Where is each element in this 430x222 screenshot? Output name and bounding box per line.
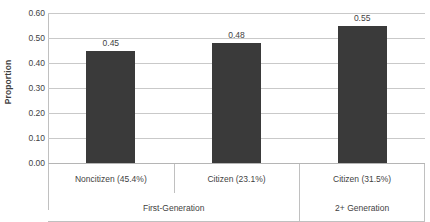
y-axis-tick-label: 0.00 [19,159,45,168]
bar [338,26,387,164]
bar-value-label: 0.55 [332,14,392,23]
category-group-label: 2+ Generation [299,193,425,222]
y-axis-title: Proportion [0,0,16,163]
y-axis-tick-label: 0.50 [19,34,45,43]
y-axis-tick-labels: 0.600.500.400.300.200.100.00 [16,0,45,222]
category-axis: Noncitizen (45.4%)Citizen (23.1%)Citizen… [48,164,425,222]
axis-right-border [424,164,425,222]
bar-value-label: 0.48 [207,31,267,40]
category-label: Citizen (31.5%) [299,164,425,193]
bar-value-label: 0.45 [81,39,141,48]
y-axis-title-label: Proportion [3,59,13,103]
category-label: Noncitizen (45.4%) [48,164,174,193]
bar [86,51,135,164]
category-group-label: First-Generation [48,193,299,222]
axis-bottom-border [48,221,425,222]
y-axis-tick-label: 0.20 [19,109,45,118]
bar-chart: Proportion 0.600.500.400.300.200.100.00 … [0,0,430,222]
y-axis-tick-label: 0.10 [19,134,45,143]
bar [212,43,261,163]
category-separator [174,164,175,193]
y-axis-tick-label: 0.30 [19,84,45,93]
category-label: Citizen (23.1%) [174,164,300,193]
group-separator [299,164,300,222]
y-axis-tick-label: 0.40 [19,59,45,68]
y-axis-tick-label: 0.60 [19,9,45,18]
category-tier-group: First-Generation2+ Generation [48,193,425,222]
plot-area: 0.450.480.55 [48,13,425,163]
category-tier-primary: Noncitizen (45.4%)Citizen (23.1%)Citizen… [48,164,425,193]
